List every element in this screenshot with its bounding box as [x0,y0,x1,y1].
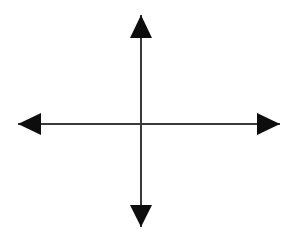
coordinate-axes-figure [0,0,297,238]
diagram-canvas [0,0,297,238]
